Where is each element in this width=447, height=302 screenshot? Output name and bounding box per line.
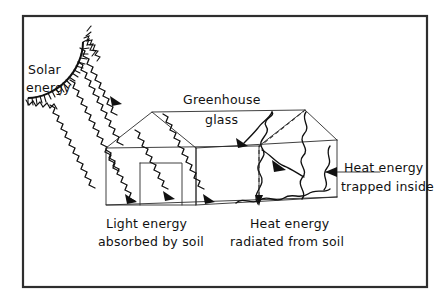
label-solar-energy-line2: energy (26, 80, 71, 95)
canvas-background (0, 0, 447, 302)
diagram-root: Solar energy Greenhouse glass Heat energ… (0, 0, 447, 302)
label-greenhouse-glass-line2: glass (205, 112, 238, 127)
label-heat-radiated-line2: radiated from soil (230, 234, 344, 249)
label-greenhouse-glass-line1: Greenhouse (183, 92, 261, 107)
label-heat-trapped-line2: trapped inside (341, 179, 434, 194)
label-solar-energy-line1: Solar (28, 62, 62, 77)
greenhouse-effect-diagram: Solar energy Greenhouse glass Heat energ… (0, 0, 447, 302)
label-heat-trapped-line1: Heat energy (344, 160, 424, 175)
label-light-absorbed-line2: absorbed by soil (98, 234, 204, 249)
label-light-absorbed-line1: Light energy (106, 216, 188, 231)
label-heat-radiated-line1: Heat energy (250, 216, 330, 231)
